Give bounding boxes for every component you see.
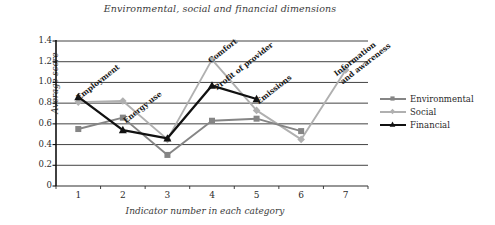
- data-marker: [298, 128, 304, 134]
- legend-item-financial[interactable]: Financial: [380, 118, 474, 131]
- legend-swatch-triangle-icon: [380, 119, 406, 130]
- legend-label: Social: [410, 107, 436, 117]
- legend-swatch-diamond-icon: [380, 106, 406, 117]
- chart-legend: EnvironmentalSocialFinancial: [380, 92, 474, 131]
- data-marker: [75, 126, 81, 132]
- series-financial: [74, 81, 260, 141]
- legend-label: Environmental: [410, 94, 474, 104]
- legend-item-social[interactable]: Social: [380, 105, 474, 118]
- legend-item-environmental[interactable]: Environmental: [380, 92, 474, 105]
- data-marker: [390, 109, 395, 114]
- data-marker: [390, 96, 394, 100]
- legend-label: Financial: [410, 120, 450, 130]
- chart-container: Environmental, social and financial dime…: [0, 0, 495, 225]
- legend-swatch-square-icon: [380, 93, 406, 104]
- data-marker: [390, 122, 396, 127]
- data-marker: [209, 118, 215, 124]
- data-marker: [254, 116, 260, 122]
- data-marker: [164, 152, 170, 158]
